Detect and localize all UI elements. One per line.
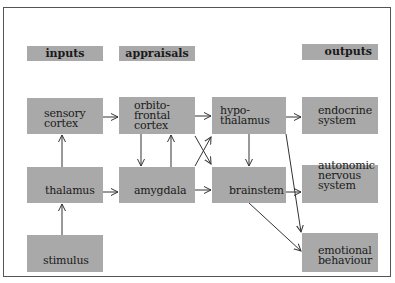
- arrows-layer: [0, 0, 395, 283]
- arrow-orbitofrontal-brainstem: [195, 136, 211, 164]
- arrow-hypothalamus-emotional: [286, 134, 301, 232]
- arrow-brainstem-emotional: [249, 203, 301, 251]
- arrow-amygdala-hypothalamus: [195, 137, 211, 166]
